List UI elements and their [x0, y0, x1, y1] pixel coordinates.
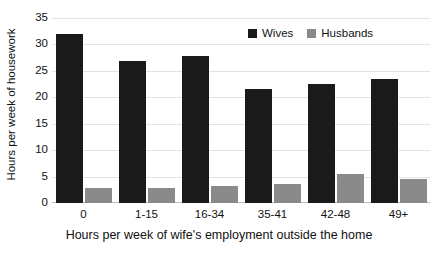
bar-wives: [245, 89, 272, 203]
bar-wives: [119, 61, 146, 203]
bar-husbands: [337, 174, 364, 203]
legend-label: Husbands: [321, 27, 373, 39]
bar-wives: [308, 84, 335, 203]
x-axis-tick-labels: 01-1516-3435-4142-4849+: [52, 206, 430, 222]
bars-layer: [52, 18, 430, 203]
y-tick-label: 25: [22, 65, 48, 77]
bar-wives: [56, 34, 83, 203]
y-axis-title: Hours per week of housework: [2, 2, 20, 207]
bar-husbands: [85, 188, 112, 203]
x-tick-label: 0: [56, 206, 112, 222]
bar-group: [119, 18, 175, 203]
bar-group: [182, 18, 238, 203]
legend-entry-husbands: Husbands: [307, 27, 373, 39]
bar-husbands: [211, 186, 238, 203]
x-tick-label: 49+: [371, 206, 427, 222]
bar-group: [371, 18, 427, 203]
x-tick-label: 35-41: [245, 206, 301, 222]
y-tick-label: 5: [22, 171, 48, 183]
bar-group: [245, 18, 301, 203]
legend: WivesHusbands: [248, 25, 373, 41]
legend-label: Wives: [262, 27, 293, 39]
y-axis-tick-labels: 05101520253035: [22, 18, 48, 203]
x-tick-label: 16-34: [182, 206, 238, 222]
y-tick-label: 30: [22, 39, 48, 51]
x-tick-label: 42-48: [308, 206, 364, 222]
bar-husbands: [148, 188, 175, 203]
x-axis-title: Hours per week of wife's employment outs…: [0, 228, 438, 242]
plot-area: [52, 18, 430, 203]
bar-group: [56, 18, 112, 203]
y-tick-label: 15: [22, 118, 48, 130]
legend-swatch-icon: [248, 29, 257, 38]
y-tick-label: 0: [22, 197, 48, 209]
x-tick-label: 1-15: [119, 206, 175, 222]
bar-husbands: [274, 184, 301, 203]
y-tick-label: 35: [22, 12, 48, 24]
y-tick-label: 10: [22, 144, 48, 156]
bar-wives: [182, 56, 209, 203]
bar-chart: Hours per week of housework 051015202530…: [0, 0, 438, 264]
y-tick-label: 20: [22, 92, 48, 104]
bar-wives: [371, 79, 398, 203]
legend-entry-wives: Wives: [248, 27, 293, 39]
bar-husbands: [400, 179, 427, 203]
bar-group: [308, 18, 364, 203]
legend-swatch-icon: [307, 29, 316, 38]
